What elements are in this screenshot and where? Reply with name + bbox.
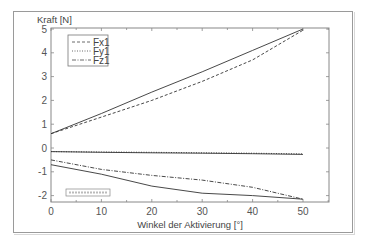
annotation-box [66, 189, 110, 196]
x-tick-label: 20 [146, 206, 158, 217]
x-tick-label: 30 [197, 206, 209, 217]
x-axis-label: Winkel der Aktivierung [°] [137, 219, 243, 230]
y-tick-label: -1 [38, 166, 47, 177]
legend-label-fz1: Fz1 [93, 55, 110, 66]
y-tick-label: 0 [41, 143, 47, 154]
x-tick-label: 50 [297, 206, 309, 217]
y-tick-label: 3 [41, 71, 47, 82]
legend: Fx1 Fy1 Fz1 [68, 35, 110, 66]
x-tick-label: 40 [247, 206, 259, 217]
y-axis-label: Kraft [N] [37, 14, 72, 25]
y-tick-label: -2 [38, 190, 47, 201]
y-tick-label: 5 [41, 24, 47, 35]
y-tick-label: 4 [41, 47, 47, 58]
x-tick-label: 0 [48, 206, 54, 217]
x-tick-label: 10 [96, 206, 108, 217]
y-tick-label: 1 [41, 119, 47, 130]
series-solid-4 [51, 152, 303, 155]
line-chart: 01020304050-2-1012345 Kraft [N] Winkel d… [0, 0, 369, 246]
y-tick-label: 2 [41, 95, 47, 106]
